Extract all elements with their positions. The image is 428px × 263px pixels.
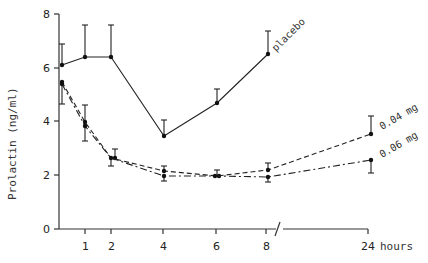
y-tick-4: 4 [43, 115, 50, 128]
y-tick-0: 0 [43, 223, 50, 236]
x-tick-2: 2 [108, 240, 115, 253]
y-axis-label: Prolactin (ng/ml) [6, 87, 19, 200]
y-tick-8: 8 [43, 8, 50, 21]
y-tick-6: 6 [43, 62, 50, 75]
label-0-04mg: 0.04 mg [378, 101, 420, 132]
x-tick-24: 24 [361, 240, 375, 253]
x-axis [59, 222, 368, 236]
label-0-06mg: 0.06 mg [378, 129, 420, 160]
placebo-points [60, 52, 270, 138]
y-axis [54, 14, 59, 229]
x-tick-4: 4 [160, 240, 167, 253]
label-placebo: placebo [270, 16, 308, 54]
x-tick-1: 1 [82, 240, 89, 253]
x-tick-8: 8 [263, 240, 270, 253]
x-axis-unit: hours [380, 240, 413, 253]
series-placebo [59, 25, 271, 136]
prolactin-chart: 8 6 4 2 0 1 2 4 6 8 24 hours Prolactin (… [0, 0, 428, 263]
x-tick-6: 6 [213, 240, 220, 253]
y-tick-2: 2 [43, 169, 50, 182]
series-0-04mg [62, 82, 374, 176]
